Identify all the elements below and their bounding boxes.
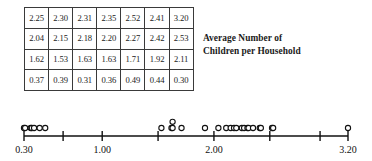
dotplot-dot <box>43 125 48 130</box>
dotplot-axis <box>24 131 348 141</box>
dotplot-svg: 0.301.002.003.20 <box>0 100 372 161</box>
dotplot-dot <box>345 125 350 130</box>
table-cell: 2.04 <box>25 28 49 49</box>
table-cell: 2.20 <box>97 28 121 49</box>
dotplot-dot <box>23 125 28 130</box>
table-cell: 0.31 <box>73 70 97 91</box>
dotplot-dot <box>216 125 221 130</box>
dotplot-dot-layer <box>21 119 350 130</box>
dotplot-dot <box>250 125 255 130</box>
dotplot-chart: 0.301.002.003.20 <box>0 100 372 161</box>
dotplot-dot <box>31 125 36 130</box>
dotplot-dot <box>202 125 207 130</box>
axis-tick-label: 0.30 <box>15 144 33 155</box>
table-cell: 0.36 <box>97 70 121 91</box>
table-cell: 2.18 <box>73 28 97 49</box>
table-body: 2.25 2.30 2.31 2.35 2.52 2.41 3.20 2.04 … <box>25 8 194 91</box>
household-children-table: 2.25 2.30 2.31 2.35 2.52 2.41 3.20 2.04 … <box>24 7 194 91</box>
data-table-container: 2.25 2.30 2.31 2.35 2.52 2.41 3.20 2.04 … <box>24 7 194 91</box>
dotplot-dot <box>37 125 42 130</box>
table-cell: 2.35 <box>97 8 121 29</box>
dotplot-dot <box>159 125 164 130</box>
table-cell: 0.39 <box>49 70 73 91</box>
table-cell: 2.30 <box>49 8 73 29</box>
table-cell: 1.63 <box>73 49 97 70</box>
table-cell: 1.92 <box>145 49 169 70</box>
table-cell: 0.44 <box>145 70 169 91</box>
table-cell: 3.20 <box>169 8 193 29</box>
table-cell: 0.49 <box>121 70 145 91</box>
table-cell: 2.53 <box>169 28 193 49</box>
caption-line-1: Average Number of <box>203 32 363 45</box>
table-row: 2.04 2.15 2.18 2.20 2.27 2.42 2.53 <box>25 28 194 49</box>
dotplot-dot <box>234 125 239 130</box>
table-cell: 1.71 <box>121 49 145 70</box>
table-cell: 2.11 <box>169 49 193 70</box>
table-row: 1.62 1.53 1.63 1.63 1.71 1.92 2.11 <box>25 49 194 70</box>
table-cell: 2.52 <box>121 8 145 29</box>
table-cell: 0.30 <box>169 70 193 91</box>
table-row: 2.25 2.30 2.31 2.35 2.52 2.41 3.20 <box>25 8 194 29</box>
table-cell: 2.41 <box>145 8 169 29</box>
table-cell: 2.15 <box>49 28 73 49</box>
dotplot-dot <box>179 125 184 130</box>
dotplot-dot <box>258 125 263 130</box>
table-cell: 1.63 <box>97 49 121 70</box>
dotplot-dot <box>271 125 276 130</box>
table-cell: 1.62 <box>25 49 49 70</box>
table-cell: 2.27 <box>121 28 145 49</box>
table-cell: 2.42 <box>145 28 169 49</box>
axis-tick-label: 3.20 <box>339 144 357 155</box>
axis-tick-label: 2.00 <box>205 144 223 155</box>
dotplot-dot <box>170 125 175 130</box>
table-cell: 0.37 <box>25 70 49 91</box>
axis-tick-label: 1.00 <box>93 144 111 155</box>
dotplot-dot <box>170 119 175 124</box>
table-row: 0.37 0.39 0.31 0.36 0.49 0.44 0.30 <box>25 70 194 91</box>
table-caption: Average Number of Children per Household <box>203 32 363 59</box>
table-cell: 2.31 <box>73 8 97 29</box>
caption-line-2: Children per Household <box>203 45 363 58</box>
dotplot-tick-labels: 0.301.002.003.20 <box>15 144 357 155</box>
table-cell: 1.53 <box>49 49 73 70</box>
table-cell: 2.25 <box>25 8 49 29</box>
